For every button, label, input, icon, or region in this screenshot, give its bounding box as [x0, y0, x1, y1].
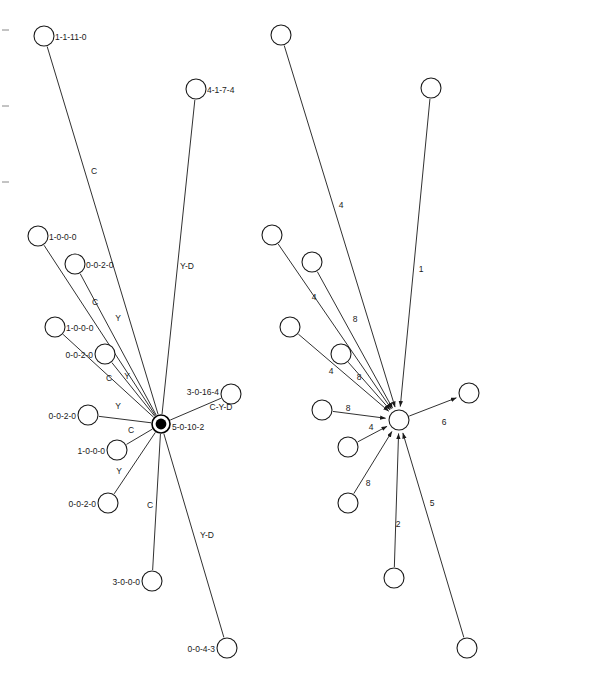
edge-label-R4-R-hub: 8 — [353, 314, 358, 324]
graph-node[interactable] — [457, 638, 477, 658]
edge-R-hub-to-R12 — [409, 398, 456, 416]
edge-label-L6-L-hub: Y — [124, 371, 130, 381]
graph-node[interactable] — [271, 25, 291, 45]
graph-node[interactable] — [65, 254, 85, 274]
edge-label-R7-R-hub: 8 — [346, 403, 351, 413]
edge-label-L1-L-hub: C — [91, 166, 97, 176]
edge-R10-to-R-hub — [394, 433, 398, 567]
edge-label-L2-L-hub: Y-D — [180, 261, 194, 271]
node-label: 1-0-0-0 — [78, 446, 106, 456]
edge-R7-to-R-hub — [333, 411, 386, 418]
edge-label-R1-R-hub: 4 — [339, 200, 344, 210]
graph-node[interactable] — [338, 493, 358, 513]
edge-R4-to-R-hub — [317, 272, 392, 409]
graph-node[interactable] — [95, 344, 115, 364]
margin-tick-group — [2, 30, 9, 182]
edge-label-R6-R-hub: 8 — [357, 372, 362, 382]
edge-label-L8-L-hub: C — [128, 425, 134, 435]
graph-node[interactable] — [262, 225, 282, 245]
graph-node[interactable] — [45, 317, 65, 337]
graph-node[interactable] — [221, 384, 241, 404]
node-label: 0-0-2-0 — [69, 499, 97, 509]
node-label: 1-1-11-0 — [55, 32, 87, 42]
node-label: 3-0-0-0 — [113, 577, 141, 587]
edge-label-R11-R-hub: 5 — [430, 498, 435, 508]
edge-label-R2-R-hub: 1 — [419, 264, 424, 274]
edge-L7-to-L-hub — [99, 416, 151, 422]
edge-label-group: CY-DCYCYYCYCY-DC-Y-D414848848256 — [91, 166, 447, 540]
graph-node[interactable] — [217, 638, 237, 658]
graph-node[interactable] — [186, 79, 206, 99]
graph-node[interactable] — [459, 383, 479, 403]
edge-group — [44, 46, 464, 638]
node-label: 0-0-2-0 — [49, 411, 77, 421]
graph-node[interactable] — [142, 571, 162, 591]
node-label-group: 1-1-11-04-1-7-41-0-0-00-0-2-01-0-0-00-0-… — [49, 32, 235, 654]
graph-node[interactable] — [78, 405, 98, 425]
edge-label-R5-R-hub: 4 — [329, 366, 334, 376]
edge-label-R3-R-hub: 4 — [312, 292, 317, 302]
edge-label-L3-L-hub: C — [92, 297, 98, 307]
edge-label-L5-L-hub: C — [106, 373, 112, 383]
hub-node[interactable] — [389, 410, 409, 430]
node-label: 0-0-2-0 — [86, 260, 114, 270]
edge-label-L7-L-hub: Y — [115, 401, 121, 411]
graph-node[interactable] — [98, 493, 118, 513]
graph-node[interactable] — [28, 226, 48, 246]
graph-node[interactable] — [302, 252, 322, 272]
edge-L10-to-L-hub — [153, 434, 161, 570]
node-group — [28, 25, 479, 658]
edge-L11-to-L-hub — [164, 434, 224, 638]
node-label: 5-0-10-2 — [172, 422, 204, 432]
graph-node[interactable] — [331, 344, 351, 364]
graph-node[interactable] — [384, 568, 404, 588]
edge-L4-to-L-hub — [80, 274, 156, 416]
edge-R2-to-R-hub — [400, 99, 430, 407]
node-label: 4-1-7-4 — [207, 85, 235, 95]
graph-node[interactable] — [107, 440, 127, 460]
edge-label-R10-R-hub: 2 — [396, 519, 401, 529]
node-label: 3-0-16-4 — [187, 387, 219, 397]
edge-label-R8-R-hub: 4 — [369, 422, 374, 432]
hub-node-core — [156, 419, 167, 430]
edge-label-L9-L-hub: Y — [116, 466, 122, 476]
edge-label-R9-R-hub: 8 — [366, 478, 371, 488]
edge-L2-to-L-hub — [162, 100, 195, 414]
diagram-canvas: CY-DCYCYYCYCY-DC-Y-D414848848256 1-1-11-… — [0, 0, 609, 684]
node-label: 1-0-0-0 — [66, 323, 94, 333]
graph-node[interactable] — [34, 26, 54, 46]
node-label: 1-0-0-0 — [49, 232, 77, 242]
edge-label-R-hub-R12: 6 — [442, 417, 447, 427]
node-label: 0-0-2-0 — [66, 350, 94, 360]
network-graph-svg: CY-DCYCYYCYCY-DC-Y-D414848848256 1-1-11-… — [0, 0, 609, 684]
edge-R11-to-R-hub — [403, 433, 464, 638]
edge-label-L4-L-hub: Y — [115, 313, 121, 323]
graph-node[interactable] — [338, 437, 358, 457]
edge-label-L11-L-hub: Y-D — [200, 530, 214, 540]
node-label: 0-0-4-3 — [188, 644, 216, 654]
graph-node[interactable] — [312, 400, 332, 420]
graph-node[interactable] — [280, 317, 300, 337]
graph-node[interactable] — [421, 78, 441, 98]
edge-label-L10-L-hub: C — [147, 500, 153, 510]
